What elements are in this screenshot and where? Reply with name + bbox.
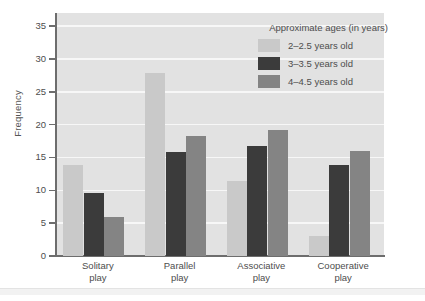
y-tick [49,190,56,192]
y-tick [49,222,56,224]
bar [186,136,206,256]
footer-rule [0,288,425,295]
y-tick-label: 10 [16,185,46,195]
gridline [57,157,384,159]
bar [247,146,267,256]
y-tick [49,157,56,159]
y-tick [49,255,56,257]
legend-entries: 2–2.5 years old3–3.5 years old4–4.5 year… [228,39,388,88]
y-tick [49,124,56,126]
category-label: Parallel play [139,260,221,284]
category-label: Solitary play [57,260,139,284]
bar [63,165,83,256]
bar [350,151,370,256]
gridline [57,124,384,126]
legend-label: 4–4.5 years old [288,76,353,87]
legend-title: Approximate ages (in years) [228,22,388,33]
bar [309,236,329,256]
category-label: Associative play [221,260,303,284]
y-tick-label: 20 [16,120,46,130]
y-tick [49,25,56,27]
category-label: Cooperative play [302,260,384,284]
y-tick-label: 5 [16,218,46,228]
bar [145,73,165,256]
legend-label: 2–2.5 years old [288,40,353,51]
legend-item: 4–4.5 years old [228,75,388,88]
legend-item: 2–2.5 years old [228,39,388,52]
legend-swatch [258,75,280,88]
legend-item: 3–3.5 years old [228,57,388,70]
y-axis-line [55,13,57,257]
legend-label: 3–3.5 years old [288,58,353,69]
y-tick-label: 0 [16,251,46,261]
bar [104,217,124,256]
legend-swatch [258,57,280,70]
y-axis-label: Frequency [12,69,23,159]
bar-chart-figure: Frequency 05101520253035 Solitary playPa… [0,0,425,301]
y-tick [49,58,56,60]
bar [227,181,247,256]
y-tick-label: 15 [16,152,46,162]
bar [329,165,349,256]
bar [166,152,186,256]
y-tick-label: 30 [16,54,46,64]
legend: Approximate ages (in years) 2–2.5 years … [228,22,388,93]
legend-swatch [258,39,280,52]
bar [268,130,288,256]
bar [84,193,104,256]
y-tick-label: 25 [16,87,46,97]
y-tick [49,91,56,93]
y-tick-label: 35 [16,21,46,31]
